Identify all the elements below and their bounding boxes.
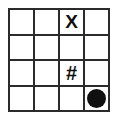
- grid-cell-r1c2[interactable]: [35, 10, 60, 36]
- grid-cell-r1c4[interactable]: [85, 10, 110, 36]
- grid-cell-r2c1[interactable]: [10, 36, 35, 62]
- grid-cell-r4c1[interactable]: [10, 87, 35, 113]
- hash-mark-glyph: #: [66, 63, 77, 83]
- grid-cell-r3c3[interactable]: #: [60, 61, 85, 87]
- grid-cell-r4c3[interactable]: [60, 87, 85, 113]
- grid-cell-r1c1[interactable]: [10, 10, 35, 36]
- grid-cell-r2c3[interactable]: [60, 36, 85, 62]
- grid-cell-r3c4[interactable]: [85, 61, 110, 87]
- puzzle-grid: X #: [8, 8, 110, 112]
- grid-cell-r4c2[interactable]: [35, 87, 60, 113]
- grid-cell-r2c2[interactable]: [35, 36, 60, 62]
- grid-cell-r4c4[interactable]: [85, 87, 110, 113]
- grid-cell-r3c1[interactable]: [10, 61, 35, 87]
- filled-circle-icon: [87, 89, 106, 108]
- grid-cell-r2c4[interactable]: [85, 36, 110, 62]
- x-mark-glyph: X: [65, 12, 78, 31]
- grid-cell-r3c2[interactable]: [35, 61, 60, 87]
- grid-cell-r1c3[interactable]: X: [60, 10, 85, 36]
- grid-figure: X #: [0, 0, 117, 120]
